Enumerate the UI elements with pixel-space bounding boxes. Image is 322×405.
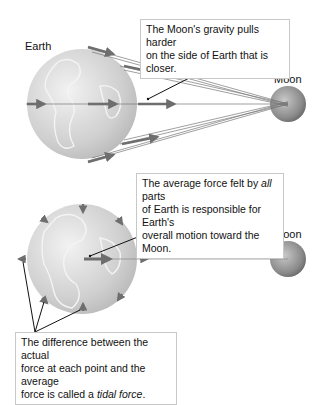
callout-tidal-force: The difference between the actual force … [15,332,177,405]
callout-text: of Earth is responsible for Earth's [142,203,278,229]
pointer-dot [147,98,149,100]
earth-label: Earth [25,40,51,52]
callout-text: force is called a tidal force. [21,388,171,401]
callout-text: overall motion toward the Moon. [142,229,278,255]
callout-closer-side: The Moon's gravity pulls harder on the s… [140,19,290,79]
callout-text: The difference between the actual [21,336,171,362]
callout-average-force: The average force felt by all parts of E… [136,173,284,259]
pointer-dot [89,255,91,257]
callout-text: The Moon's gravity pulls harder [146,23,284,49]
callout-text: The average force felt by all parts [142,177,278,203]
callout-text: force at each point and the average [21,362,171,388]
callout-text: on the side of Earth that is closer. [146,49,284,75]
